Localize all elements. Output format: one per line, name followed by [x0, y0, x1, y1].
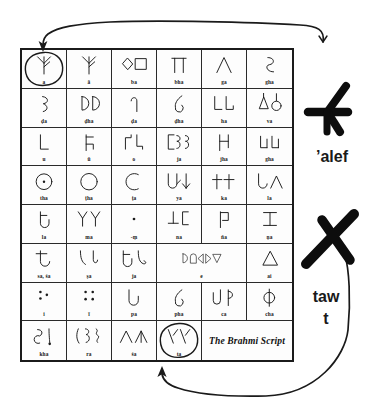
cell-romanization: ña [221, 235, 227, 243]
script-cell-o-14: o [112, 128, 157, 167]
glyph-ja2 [112, 244, 156, 274]
glyph-sha [112, 321, 156, 352]
annotation-label-t: t [296, 310, 356, 328]
cell-romanization: tha [40, 196, 48, 204]
glyph-ha [202, 89, 246, 119]
figure-caption-cell: The Brahmi Script [202, 321, 292, 360]
script-cell-gha-5: gha [247, 50, 292, 89]
glyph-cha [247, 283, 292, 313]
cell-romanization: u [42, 157, 45, 165]
script-cell-a-29: ṇa [247, 205, 292, 244]
glyph-ga [202, 50, 246, 80]
script-cell-na-27: na [157, 205, 202, 244]
glyph-dha2 [157, 89, 201, 119]
cell-romanization: ṣa [87, 274, 92, 282]
script-cell--1: ā [67, 50, 112, 89]
glyph-nya [202, 205, 246, 235]
glyph-ttha [67, 166, 111, 196]
glyph-pa [112, 283, 156, 313]
script-cell-e-33: e [157, 244, 247, 283]
figure-root: aābabhagaghaḍaḍhaḍaḍhahavauūojajhaghatha… [0, 0, 377, 414]
script-cell-jha-16: jha [202, 128, 247, 167]
script-cell-tha-18: tha [22, 166, 67, 205]
cell-romanization: ḍha [175, 119, 184, 127]
glyph-pha [157, 283, 201, 313]
cell-romanization: kha [40, 352, 49, 360]
glyph-u [22, 128, 66, 158]
glyph-va [247, 89, 292, 119]
annotation-label-alef: ’alef [296, 148, 368, 166]
script-cell-ka-22: ka [202, 166, 247, 205]
glyph-ba [112, 50, 156, 80]
glyph-nna [247, 205, 292, 235]
cell-romanization: jha [220, 157, 228, 165]
script-cell-saa-30: sa, śa [22, 244, 67, 283]
glyph-tta [112, 166, 156, 196]
cell-romanization: ā [88, 80, 91, 88]
cell-romanization: ja [132, 274, 137, 282]
script-cell-ma-25: ma [67, 205, 112, 244]
script-cell-ha-9: ḍha [157, 89, 202, 128]
script-cell-la-24: la [22, 205, 67, 244]
glyph-na [157, 205, 201, 235]
script-cell-ba-2: ba [112, 50, 157, 89]
glyph-gha2 [247, 128, 292, 158]
annotation-label-taw: taw [296, 288, 356, 306]
script-cell-a-28: ña [202, 205, 247, 244]
cell-romanization: śa [132, 352, 137, 360]
cell-romanization: ḍha [85, 119, 94, 127]
cell-romanization: ī [88, 312, 90, 320]
cell-romanization: la [267, 196, 271, 204]
script-cell-gha-17: gha [247, 128, 292, 167]
cell-romanization: ṇa [267, 235, 273, 243]
cell-romanization: ba [131, 80, 137, 88]
script-cell-a-8: ḍa [112, 89, 157, 128]
glyph-da2 [112, 89, 156, 119]
glyph-ai [247, 244, 292, 274]
glyph-tha [22, 166, 66, 196]
cell-romanization: a [43, 80, 46, 88]
glyph-aa [67, 50, 111, 80]
cell-romanization: i [43, 312, 45, 320]
script-cell-ya-21: ya [157, 166, 202, 205]
script-grid: aābabhagaghaḍaḍhaḍaḍhahavauūojajhaghatha… [22, 50, 292, 360]
script-cell-ai-34: ai [247, 244, 292, 283]
cell-romanization: ga [221, 80, 227, 88]
glyph-ka [202, 166, 246, 196]
cell-romanization: va [267, 119, 273, 127]
script-cell-ga-4: ga [202, 50, 247, 89]
cell-romanization: ṭa [132, 196, 137, 204]
glyph-ra [67, 321, 111, 352]
cell-romanization: ca [221, 312, 226, 320]
glyph-gha [247, 50, 292, 80]
cell-romanization: -ṃ [131, 235, 138, 243]
script-cell-pha-38: pha [157, 283, 202, 322]
glyph-kha [22, 321, 66, 352]
glyph-la2 [22, 205, 66, 235]
cell-romanization: gha [265, 157, 274, 165]
script-cell-u-12: u [22, 128, 67, 167]
script-cell-ja-32: ja [112, 244, 157, 283]
glyph-i [22, 283, 66, 313]
cell-romanization: ja [177, 157, 182, 165]
script-cell-a-43: śa [112, 321, 157, 360]
script-cell-ca-39: ca [202, 283, 247, 322]
cell-romanization: ka [221, 196, 227, 204]
script-cell-i-35: i [22, 283, 67, 322]
glyph-ya [157, 166, 201, 196]
script-cell-a-20: ṭa [112, 166, 157, 205]
cell-romanization: la [42, 235, 46, 243]
glyph-e [157, 244, 246, 274]
cell-romanization: ya [176, 196, 182, 204]
cell-romanization: ḍa [41, 119, 47, 127]
script-cell-la-23: la [247, 166, 292, 205]
cell-romanization: bha [175, 80, 184, 88]
glyph-anusvara [112, 205, 156, 235]
script-cell-cha-40: cha [247, 283, 292, 322]
cell-romanization: e [200, 274, 203, 282]
cell-romanization: cha [265, 312, 273, 320]
script-cell-pa-37: pa [112, 283, 157, 322]
script-cell-ra-42: ra [67, 321, 112, 360]
script-cell-ha-19: ṭha [67, 166, 112, 205]
glyph-ii [67, 283, 111, 313]
